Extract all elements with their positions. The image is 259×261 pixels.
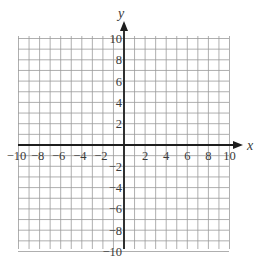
x-tick-label: −2	[94, 149, 107, 163]
x-tick-label: −8	[31, 149, 44, 163]
y-tick-label: 2	[116, 117, 122, 131]
y-tick-label: 8	[116, 53, 122, 67]
y-axis-label: y	[116, 6, 125, 21]
x-tick-label: 6	[184, 149, 190, 163]
x-tick-label: −4	[73, 149, 87, 163]
y-tick-label: −2	[109, 160, 122, 174]
y-tick-label: −8	[109, 224, 122, 238]
x-tick-label: −10	[7, 149, 27, 163]
coordinate-plane: −10−8−6−4−2246810108642−2−4−6−8−10 x y	[0, 0, 259, 261]
x-tick-label: 10	[223, 149, 236, 163]
y-axis-arrow-icon	[120, 21, 128, 31]
x-tick-label: −6	[52, 149, 65, 163]
y-tick-label: −10	[102, 245, 122, 259]
y-tick-label: −4	[109, 181, 123, 195]
x-tick-label: 4	[163, 149, 170, 163]
axes	[18, 21, 243, 249]
y-tick-label: 6	[116, 75, 122, 89]
y-tick-label: −6	[109, 202, 122, 216]
y-tick-label: 4	[116, 96, 123, 110]
x-axis-label: x	[246, 138, 254, 153]
y-tick-label: 10	[110, 32, 123, 46]
x-tick-label: 8	[205, 149, 211, 163]
x-tick-label: 2	[142, 149, 148, 163]
x-axis-arrow-icon	[233, 141, 243, 149]
